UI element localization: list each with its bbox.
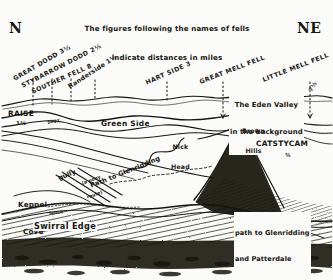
keppel-cove-line-1: Keppel [18, 200, 47, 209]
annotation-path-glenridding-patterdale: path to Glenridding and Patterdale [234, 212, 311, 280]
eden-valley-line-2: in the background [230, 128, 303, 137]
place-label-raise: RAISE [8, 110, 34, 118]
pony-route-line-2: route) [86, 189, 106, 201]
pony-route-line-1: (a pony [81, 174, 101, 186]
compass-north-label: N [9, 21, 22, 36]
distance-catstycam: ¾ [285, 152, 291, 158]
brown-hills-line-2: Hills [242, 148, 265, 155]
panorama-diagram: The figures following the names of fells… [0, 0, 333, 280]
place-label-catstycam: CATSTYCAM [255, 140, 309, 148]
path-gp-line-2: and Patterdale [235, 255, 310, 264]
eden-valley-line-1: The Eden Valley [230, 101, 303, 110]
fence-line-1: fence [49, 209, 64, 216]
compass-northeast-label: NE [297, 21, 321, 36]
place-label-nick-head: Nick Head [171, 130, 190, 185]
distance-raise: 1½ [16, 120, 26, 126]
place-label-keppel-cove: Keppel Cove [18, 182, 47, 254]
caption-line-1: The figures following the names of fells [72, 24, 262, 34]
nick-head-line-2: Head [171, 164, 190, 171]
nick-head-line-1: Nick [171, 144, 190, 151]
place-label-swirral-edge: Swirral Edge [33, 222, 97, 231]
place-label-green-side: Green Side [101, 120, 150, 128]
brown-hills-line-1: Brown [242, 128, 265, 135]
path-gp-line-1: path to Glenridding [235, 229, 310, 238]
